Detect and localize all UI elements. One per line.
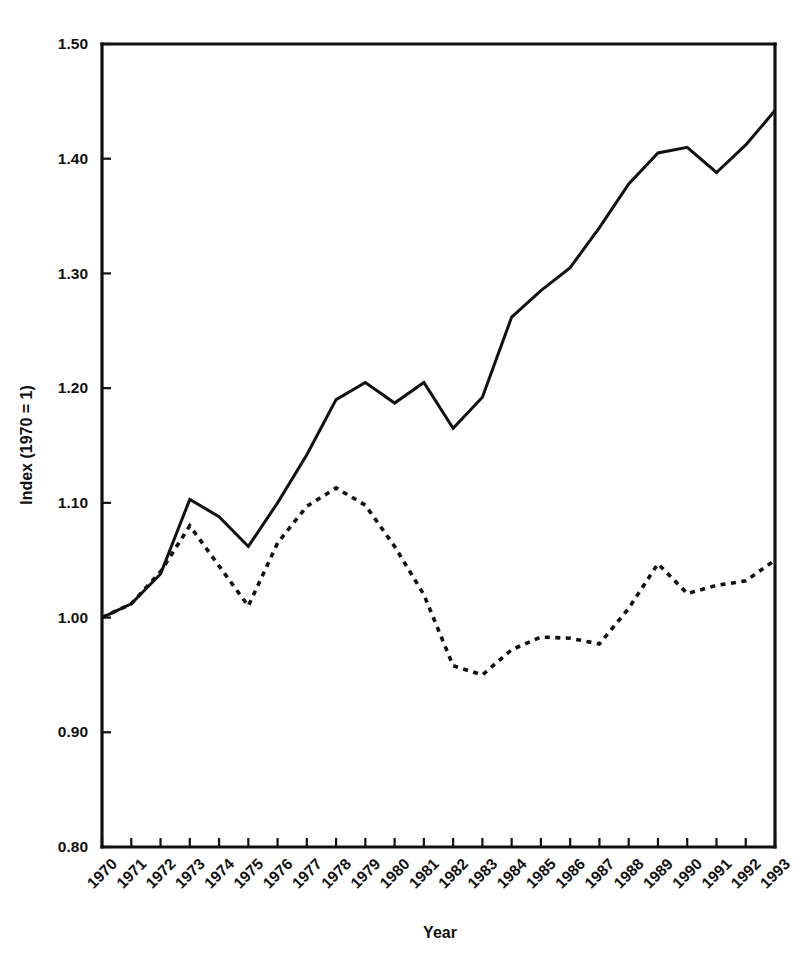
x-tick-label: 1988 — [610, 855, 647, 892]
x-tick-label: 1984 — [493, 855, 530, 892]
x-tick-label: 1973 — [171, 855, 208, 892]
plot-frame — [102, 44, 775, 847]
x-tick-label: 1993 — [757, 855, 794, 892]
series-line-dashed-series — [102, 488, 775, 675]
x-tick-label: 1970 — [84, 855, 120, 891]
y-axis-tick-labels: 1.501.401.301.201.101.000.900.80 — [58, 35, 88, 855]
x-tick-label: 1974 — [201, 855, 238, 892]
x-tick-label: 1986 — [552, 855, 589, 892]
y-tick-label: 1.50 — [58, 35, 88, 52]
y-tick-label: 1.30 — [58, 265, 88, 282]
x-tick-label: 1983 — [464, 855, 501, 892]
x-tick-label: 1971 — [113, 855, 150, 892]
x-tick-label: 1977 — [289, 855, 325, 891]
data-series-group — [102, 111, 775, 675]
x-tick-label: 1976 — [259, 855, 296, 892]
x-axis-tick-labels: 1970197119721973197419751976197719781979… — [84, 855, 794, 892]
y-tick-label: 0.80 — [58, 838, 88, 855]
x-tick-label: 1990 — [669, 855, 705, 891]
x-tick-label: 1978 — [318, 855, 355, 892]
x-tick-label: 1992 — [727, 855, 763, 891]
x-tick-label: 1991 — [698, 855, 735, 892]
y-tick-label: 1.40 — [58, 150, 88, 167]
x-tick-label: 1979 — [347, 855, 384, 892]
x-tick-label: 1975 — [230, 855, 267, 892]
chart-figure: 1.501.401.301.201.101.000.900.80 1970197… — [0, 0, 804, 962]
y-tick-label: 1.20 — [58, 379, 88, 396]
y-axis-title: Index (1970 = 1) — [18, 385, 35, 505]
x-axis-title: Year — [423, 924, 457, 941]
line-chart-svg: 1.501.401.301.201.101.000.900.80 1970197… — [0, 0, 804, 962]
y-tick-label: 1.10 — [58, 494, 88, 511]
x-tick-label: 1972 — [142, 855, 178, 891]
x-tick-label: 1982 — [435, 855, 471, 891]
x-tick-label: 1981 — [406, 855, 443, 892]
y-tick-label: 0.90 — [58, 723, 88, 740]
y-tick-label: 1.00 — [58, 609, 88, 626]
x-tick-label: 1989 — [640, 855, 677, 892]
x-tick-label: 1987 — [581, 855, 617, 891]
x-tick-label: 1985 — [523, 855, 560, 892]
x-tick-label: 1980 — [376, 855, 412, 891]
